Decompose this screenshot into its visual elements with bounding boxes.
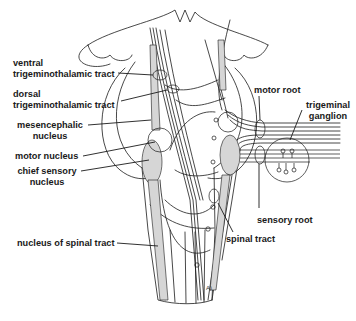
midbrain-outline [88, 10, 268, 45]
sensory-root-ellipse [255, 146, 265, 164]
label-mesencephalic-nucleus: mesencephalic nucleus [13, 120, 87, 141]
label-chief-sensory-nucleus: chief sensory nucleus [14, 166, 80, 187]
label-sensory-root: sensory root [257, 215, 313, 226]
label-spinal-tract: spinal tract [226, 234, 275, 245]
label-line: nucleus [13, 131, 87, 142]
label-line: dorsal [13, 89, 115, 100]
label-line: trigeminothalamic tract [13, 69, 115, 80]
label-line: mesencephalic [13, 120, 87, 131]
label-dorsal-trigeminothalamic-tract: dorsal trigeminothalamic tract [13, 89, 115, 110]
ganglion-circle [265, 138, 309, 182]
label-trigeminal-ganglion: trigeminal ganglion [300, 100, 356, 121]
label-line: nucleus [14, 177, 80, 188]
label-line: ventral [13, 58, 115, 69]
corner-mark: A) [206, 285, 212, 291]
label-nucleus-of-spinal-tract: nucleus of spinal tract [17, 238, 115, 249]
label-line: chief sensory [14, 166, 80, 177]
chief-sensory-nucleus [142, 140, 162, 184]
label-motor-nucleus: motor nucleus [15, 151, 78, 162]
label-motor-root: motor root [254, 85, 300, 96]
label-line: trigeminothalamic tract [13, 100, 115, 111]
label-line: trigeminal [300, 100, 356, 111]
label-line: ganglion [300, 111, 356, 122]
label-ventral-trigeminothalamic-tract: ventral trigeminothalamic tract [13, 58, 115, 79]
spinal-nucleus [148, 180, 168, 300]
